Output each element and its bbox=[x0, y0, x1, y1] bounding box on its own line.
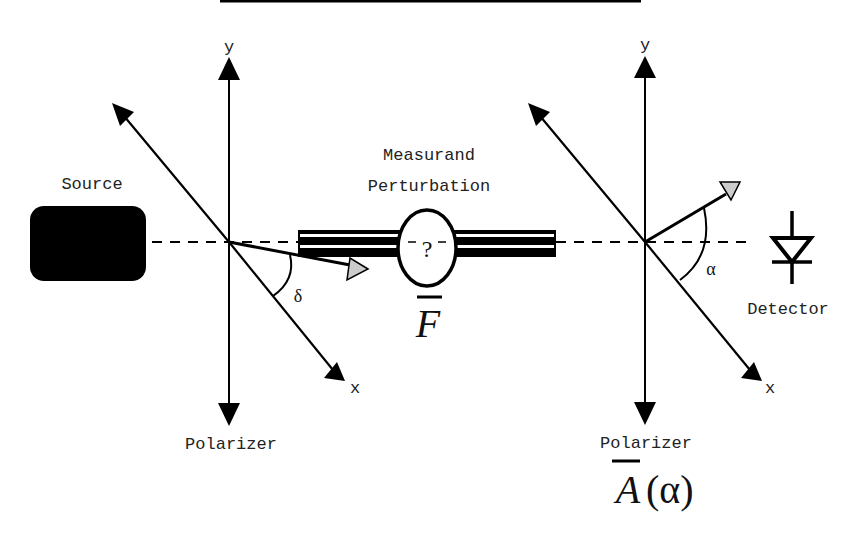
x-axis-left bbox=[229, 242, 333, 370]
source-label: Source bbox=[61, 175, 122, 194]
analyzer-argument: (α) bbox=[646, 467, 694, 512]
tube-right-inner-bot bbox=[454, 245, 554, 248]
measurand: ? F Measurand Perturbation bbox=[298, 146, 556, 346]
polarizer-right: y x α Polarizer A (α) bbox=[528, 36, 775, 512]
y-label-right: y bbox=[640, 36, 650, 55]
polarizer-right-label: Polarizer bbox=[600, 434, 692, 453]
delta-arc bbox=[273, 255, 291, 296]
pointer-left-icon bbox=[347, 258, 368, 280]
y-arrow-up-right-icon bbox=[634, 56, 656, 78]
diode-triangle-icon bbox=[773, 238, 811, 262]
tube-left-inner-bot bbox=[300, 245, 402, 248]
measurand-label-line2: Perturbation bbox=[368, 177, 490, 196]
x-arrow-right-icon bbox=[741, 362, 762, 381]
diag-axis-right-up bbox=[540, 116, 645, 242]
detector-label: Detector bbox=[747, 300, 829, 319]
tube-left-inner-top bbox=[300, 234, 402, 237]
source: Source bbox=[30, 175, 146, 281]
y-arrow-down-left-icon bbox=[218, 403, 240, 426]
source-box bbox=[30, 206, 146, 281]
measurand-label-line1: Measurand bbox=[383, 146, 475, 165]
y-arrow-up-left-icon bbox=[218, 57, 240, 80]
analyzer-letter: A bbox=[613, 467, 641, 512]
detector: Detector bbox=[747, 211, 829, 319]
polarimetric-sensor-diagram: Source y x δ Polarizer ? F Measura bbox=[0, 0, 856, 536]
y-label-left: y bbox=[224, 38, 234, 57]
x-arrow-left-icon bbox=[324, 362, 345, 381]
delta-label: δ bbox=[294, 286, 302, 306]
polarization-vector-right bbox=[645, 194, 726, 242]
force-symbol: F bbox=[415, 301, 441, 346]
alpha-label: α bbox=[706, 259, 716, 279]
unknown-symbol: ? bbox=[422, 236, 433, 262]
x-label-right: x bbox=[765, 379, 775, 398]
polarizer-left-label: Polarizer bbox=[185, 435, 277, 454]
tube-right-inner-top bbox=[454, 234, 554, 237]
x-label-left: x bbox=[350, 379, 360, 398]
y-arrow-down-right-icon bbox=[634, 402, 656, 425]
